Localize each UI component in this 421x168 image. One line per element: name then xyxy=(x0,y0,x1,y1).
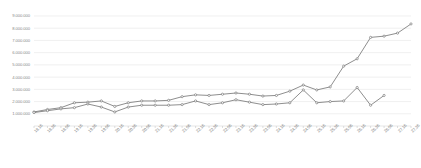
data-point-marker xyxy=(262,104,264,106)
y-axis-tick-label: 2.000.000 xyxy=(0,99,30,104)
data-point-marker xyxy=(329,100,331,102)
data-point-marker xyxy=(60,108,62,110)
data-point-marker xyxy=(329,86,331,88)
data-point-marker xyxy=(370,36,372,38)
y-axis-tick-label: 8.000.000 xyxy=(0,26,30,31)
y-axis-tick-label: 4.000.000 xyxy=(0,75,30,80)
data-point-marker xyxy=(370,104,372,106)
data-point-marker xyxy=(396,32,398,34)
data-point-marker xyxy=(33,111,35,113)
data-point-marker xyxy=(208,104,210,106)
series-upper xyxy=(33,23,412,113)
data-point-marker xyxy=(302,89,304,91)
data-point-marker xyxy=(248,101,250,103)
y-axis-tick-label: 7.000.000 xyxy=(0,38,30,43)
y-axis-tick-label: 5.000.000 xyxy=(0,62,30,67)
data-point-marker xyxy=(194,94,196,96)
data-point-marker xyxy=(168,104,170,106)
data-point-marker xyxy=(275,103,277,105)
data-point-marker xyxy=(100,100,102,102)
data-point-marker xyxy=(127,106,129,108)
data-point-marker xyxy=(181,96,183,98)
data-point-marker xyxy=(221,93,223,95)
data-point-marker xyxy=(46,110,48,112)
data-point-marker xyxy=(154,100,156,102)
data-series-layer xyxy=(33,23,412,114)
data-point-marker xyxy=(302,84,304,86)
data-point-marker xyxy=(248,93,250,95)
data-point-marker xyxy=(316,89,318,91)
plot-area xyxy=(0,0,421,168)
data-point-marker xyxy=(356,58,358,60)
data-point-marker xyxy=(141,100,143,102)
data-point-marker xyxy=(154,104,156,106)
data-point-marker xyxy=(114,105,116,107)
series-line xyxy=(34,24,411,112)
data-point-marker xyxy=(100,106,102,108)
data-point-marker xyxy=(289,90,291,92)
data-point-marker xyxy=(356,86,358,88)
data-point-marker xyxy=(410,23,412,25)
series-lower xyxy=(33,86,385,113)
data-point-marker xyxy=(316,102,318,104)
data-point-marker xyxy=(87,103,89,105)
data-point-marker xyxy=(235,92,237,94)
data-point-marker xyxy=(343,65,345,67)
data-point-marker xyxy=(289,102,291,104)
data-point-marker xyxy=(221,102,223,104)
data-point-marker xyxy=(208,94,210,96)
data-point-marker xyxy=(168,99,170,101)
data-point-marker xyxy=(141,104,143,106)
data-point-marker xyxy=(383,35,385,37)
y-axis-tick-label: 6.000.000 xyxy=(0,50,30,55)
data-point-marker xyxy=(262,95,264,97)
gridlines xyxy=(34,16,411,126)
data-point-marker xyxy=(383,94,385,96)
data-point-marker xyxy=(181,104,183,106)
data-point-marker xyxy=(127,102,129,104)
y-axis-tick-label: 3.000.000 xyxy=(0,87,30,92)
data-point-marker xyxy=(235,99,237,101)
y-axis-tick-label: 1.000.000 xyxy=(0,111,30,116)
data-point-marker xyxy=(343,100,345,102)
data-point-marker xyxy=(194,100,196,102)
y-axis-tick-label: 9.000.000 xyxy=(0,13,30,18)
data-point-marker xyxy=(73,107,75,109)
series-line xyxy=(34,88,384,113)
data-point-marker xyxy=(73,102,75,104)
data-point-marker xyxy=(275,94,277,96)
data-point-marker xyxy=(114,111,116,113)
line-chart: 9.000.0008.000.0007.000.0006.000.0005.00… xyxy=(0,0,421,168)
